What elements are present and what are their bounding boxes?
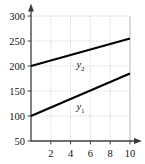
x-axis-tick-labels: 2 4 6 8 10 <box>48 148 135 159</box>
y-axis-arrow <box>28 4 34 12</box>
plot-background <box>31 16 130 141</box>
series-label-y2-subscript: 2 <box>81 65 85 73</box>
x-axis-arrow <box>134 138 142 144</box>
y-tick-label-250: 250 <box>9 36 25 47</box>
line-chart-svg: 300 250 200 150 100 50 2 4 6 8 10 y2 y1 <box>0 0 145 164</box>
x-tick-label-2: 2 <box>48 148 53 159</box>
y-tick-label-200: 200 <box>9 61 25 72</box>
y-axis-tick-labels: 300 250 200 150 100 50 <box>9 11 25 147</box>
y-tick-label-300: 300 <box>9 11 25 22</box>
y-tick-label-150: 150 <box>9 86 25 97</box>
y-tick-label-50: 50 <box>15 136 26 147</box>
series-label-y1-subscript: 1 <box>81 107 85 115</box>
x-tick-label-8: 8 <box>108 148 113 159</box>
x-tick-label-4: 4 <box>68 148 74 159</box>
y-tick-label-100: 100 <box>9 111 25 122</box>
x-tick-label-10: 10 <box>125 148 136 159</box>
x-tick-label-6: 6 <box>88 148 93 159</box>
chart-figure: 300 250 200 150 100 50 2 4 6 8 10 y2 y1 <box>0 0 145 164</box>
